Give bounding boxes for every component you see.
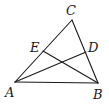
segments-group <box>15 20 98 83</box>
triangle-diagram: A B C E D <box>0 0 109 106</box>
label-vertex-b: B <box>92 87 103 102</box>
labels-group: A B C E D <box>4 3 103 102</box>
segment-ad <box>15 52 86 82</box>
label-point-e: E <box>29 40 40 55</box>
label-point-d: D <box>87 40 99 55</box>
segment-ab <box>15 82 98 83</box>
label-vertex-c: C <box>66 3 76 18</box>
label-vertex-a: A <box>4 85 14 100</box>
